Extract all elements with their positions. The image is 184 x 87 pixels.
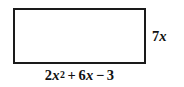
width-term2-variable: x [86,68,93,83]
width-term3-constant: 3 [107,68,114,83]
width-operator-minus: − [93,68,106,83]
geometry-figure: 2x2+6x−3 7x [0,0,184,87]
width-operator-plus: + [65,68,78,83]
rectangle-width-label: 2x2+6x−3 [13,64,146,86]
width-term2-coefficient: 6 [78,68,85,83]
width-term1-variable: x [52,68,59,83]
rectangle-height-label: 7x [152,8,182,64]
height-variable: x [159,29,166,44]
rectangle-shape [13,8,146,64]
